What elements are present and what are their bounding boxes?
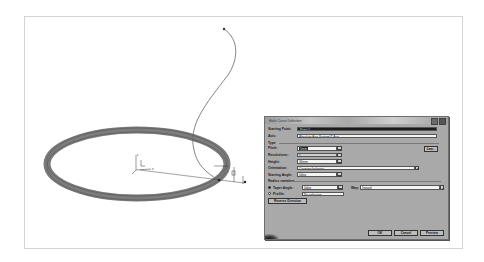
starting-point-label: Starting Point: bbox=[268, 127, 291, 131]
type-label: Type bbox=[268, 141, 276, 145]
curve-end-point[interactable] bbox=[223, 28, 225, 30]
axis-end-point[interactable] bbox=[244, 181, 246, 183]
axis-label: Axis: bbox=[268, 134, 276, 138]
revolutions-label: Revolutions: bbox=[268, 153, 289, 157]
law-button[interactable]: Law... bbox=[424, 146, 438, 152]
orientation-dropdown-icon[interactable] bbox=[415, 166, 419, 171]
profile-field[interactable]: No selection bbox=[302, 192, 344, 197]
helix-curve[interactable] bbox=[193, 29, 236, 180]
pitch-field[interactable]: 5mm bbox=[297, 146, 337, 151]
radius-variation-separator bbox=[291, 181, 441, 182]
taper-angle-field[interactable]: 0deg bbox=[302, 185, 338, 190]
way-label: Way: bbox=[351, 186, 359, 190]
height-spinner[interactable] bbox=[337, 159, 342, 164]
profile-radio[interactable] bbox=[268, 192, 271, 195]
starting-angle-field[interactable]: 0deg bbox=[297, 172, 337, 177]
type-separator bbox=[279, 143, 439, 144]
cancel-button[interactable]: Cancel bbox=[394, 230, 418, 236]
help-icon[interactable] bbox=[431, 118, 438, 125]
preview-button[interactable]: Preview bbox=[420, 230, 444, 236]
height-label: Height: bbox=[268, 160, 280, 164]
profile-label: Profile: bbox=[273, 192, 285, 196]
starting-angle-spinner[interactable] bbox=[337, 172, 342, 177]
height-field[interactable]: 36mm bbox=[297, 159, 337, 164]
axis-field[interactable]: Absolute Axis System\Z Axis bbox=[297, 134, 437, 139]
taper-angle-radio[interactable] bbox=[268, 186, 271, 189]
starting-angle-label: Starting Angle: bbox=[268, 173, 292, 177]
way-dropdown-icon[interactable] bbox=[440, 185, 444, 190]
starting-point[interactable] bbox=[218, 179, 221, 182]
ok-button[interactable]: OK bbox=[368, 230, 392, 236]
axis-label-z: z bbox=[137, 153, 139, 157]
taper-angle-spinner[interactable] bbox=[338, 185, 343, 190]
taper-angle-label: Taper Angle: bbox=[273, 186, 293, 190]
way-select[interactable]: Inward bbox=[360, 185, 440, 190]
close-icon[interactable] bbox=[439, 118, 446, 125]
dialog-title: Helix Curve Definition bbox=[269, 119, 302, 123]
orientation-select[interactable]: Counterclockwise bbox=[297, 166, 415, 171]
starting-point-field[interactable]: Point.1 bbox=[297, 127, 437, 132]
helix-curve-definition-dialog: Helix Curve Definition Starting Point: P… bbox=[264, 116, 449, 240]
corner-shadow bbox=[265, 234, 279, 239]
dialog-titlebar[interactable]: Helix Curve Definition bbox=[265, 117, 448, 124]
axis-label-x: x bbox=[152, 167, 154, 171]
orientation-label: Orientation: bbox=[268, 166, 287, 170]
reverse-direction-button[interactable]: Reverse Direction bbox=[268, 198, 307, 204]
pitch-label: Pitch: bbox=[268, 146, 277, 150]
revolutions-field[interactable]: 1 bbox=[297, 153, 337, 158]
revolutions-spinner[interactable] bbox=[337, 153, 342, 158]
pitch-spinner[interactable] bbox=[337, 146, 342, 151]
